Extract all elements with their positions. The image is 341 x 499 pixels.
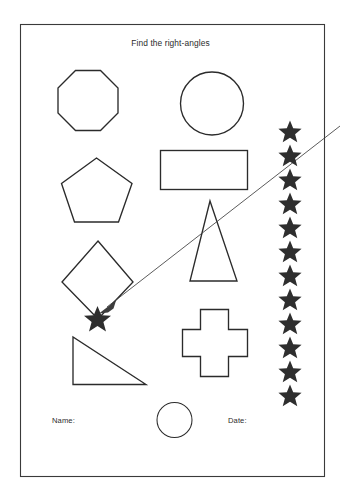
shape-rectangle (161, 151, 248, 190)
star-icon (278, 289, 301, 311)
page-title: Find the right-angles (131, 38, 209, 48)
star-icon (278, 361, 301, 383)
shape-triangle-right (73, 337, 146, 385)
name-field-label: Name: (52, 416, 75, 425)
date-field-label: Date: (228, 416, 247, 425)
star-icon (278, 145, 301, 167)
shape-circle-large (181, 72, 244, 135)
star-icon (278, 121, 301, 143)
star-icon (278, 193, 301, 215)
star-icon (278, 337, 301, 359)
shape-octagon (58, 71, 118, 131)
worksheet-canvas: Find the right-angles (0, 0, 341, 499)
shape-pentagon (62, 158, 133, 222)
shape-cross (183, 310, 248, 377)
worksheet-page: Find the right-angles (0, 0, 341, 499)
star-icon (278, 313, 301, 335)
star-icon (278, 169, 301, 191)
shape-triangle-tall (190, 201, 237, 281)
star-icon (278, 241, 301, 263)
star-icon (278, 385, 301, 407)
star-icon (278, 217, 301, 239)
star-column (278, 121, 301, 407)
star-icon (278, 265, 301, 287)
shape-circle-small (157, 403, 192, 438)
